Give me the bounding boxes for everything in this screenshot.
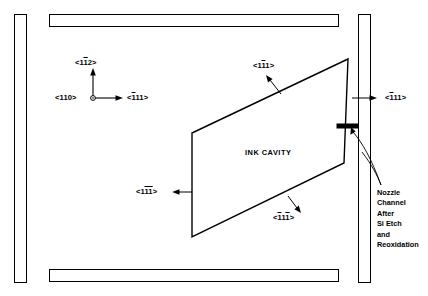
lower-left-label-barred: 11 <box>144 187 152 196</box>
lower-middle-label-suffix: > <box>290 213 295 222</box>
triad-origin-dot <box>92 97 94 99</box>
direction-label-upper-right: <111> <box>253 62 274 70</box>
direction-label-far-right: <111> <box>385 94 406 102</box>
lower-left-arrowhead <box>172 189 180 195</box>
top-frame-bar <box>50 15 339 27</box>
callout-line-6: Reoxidation <box>377 240 419 250</box>
bottom-frame-bar <box>50 270 339 282</box>
callout-line-3: After <box>377 209 419 219</box>
diagram-vector-layer <box>0 0 428 296</box>
far-right-arrowhead <box>370 95 378 101</box>
callout-line-2: Channel <box>377 198 419 208</box>
callout-line-4: Si Etch <box>377 219 419 229</box>
triad-vertical-arrowhead <box>90 68 96 76</box>
triad-vertical-label: <112> <box>75 59 97 67</box>
direction-label-lower-middle: <111> <box>273 214 294 222</box>
diagram-canvas: <112> <110> <111> <111> <111> <111> <111… <box>0 0 428 296</box>
nozzle-channel-marker <box>337 124 358 128</box>
upper-right-label-suffix: 1> <box>265 61 274 70</box>
left-frame-bar <box>15 15 27 283</box>
nozzle-channel-callout-text: Nozzle Channel After Si Etch and Reoxida… <box>377 188 419 250</box>
ink-cavity-label: INK CAVITY <box>245 148 291 157</box>
callout-line-1: Nozzle <box>377 188 419 198</box>
triad-vertical-label-suffix: 2> <box>88 58 97 67</box>
upper-right-leader-line <box>270 80 281 94</box>
callout-line-5: and <box>377 230 419 240</box>
triad-left-label: <110> <box>55 94 77 102</box>
direction-label-lower-left: <111> <box>136 188 157 196</box>
far-right-label-suffix: 11> <box>393 93 406 102</box>
triad-horizontal-arrowhead <box>116 95 124 101</box>
triad-right-label-suffix: 11> <box>135 93 148 102</box>
lower-middle-leader-line <box>288 196 297 208</box>
lower-left-label-suffix: > <box>153 187 158 196</box>
triad-right-label: <111> <box>127 94 148 102</box>
triad-left-label-text: <110> <box>55 93 77 102</box>
